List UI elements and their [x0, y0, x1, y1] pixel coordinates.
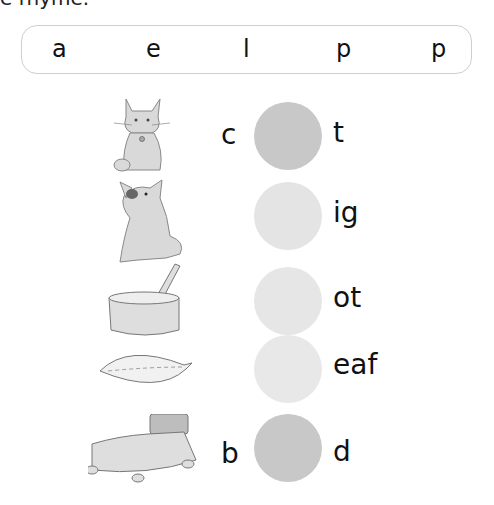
answer-circle[interactable]: [254, 102, 322, 170]
pot-icon: [105, 260, 185, 340]
answer-circle[interactable]: [254, 267, 322, 335]
instruction-text: e rhyme.: [0, 0, 89, 10]
word-row-cat: c t: [0, 95, 494, 175]
bank-letter[interactable]: a: [52, 34, 67, 64]
cat-icon: [112, 95, 172, 175]
word-row-bed: b d: [0, 410, 494, 500]
pig-icon: [110, 176, 190, 266]
bank-letter[interactable]: p: [431, 34, 446, 64]
answer-circle[interactable]: [254, 182, 322, 250]
bank-letter[interactable]: l: [243, 34, 250, 64]
leaf-icon: [98, 347, 194, 393]
rime-text: d: [333, 436, 351, 468]
rime-text: ig: [333, 197, 359, 229]
rime-text: eaf: [333, 349, 377, 381]
letter-bank: a e l p p: [21, 25, 472, 74]
bed-icon: [88, 414, 204, 484]
word-row-pig: ig: [0, 176, 494, 266]
word-row-leaf: eaf: [0, 335, 494, 405]
bank-letter[interactable]: e: [146, 34, 161, 64]
onset-letter: b: [221, 438, 239, 470]
rime-text: t: [333, 117, 344, 149]
answer-circle[interactable]: [254, 335, 322, 403]
word-row-pot: ot: [0, 260, 494, 340]
onset-letter: c: [221, 119, 236, 151]
rime-text: ot: [333, 282, 361, 314]
bank-letter[interactable]: p: [336, 34, 351, 64]
answer-circle[interactable]: [254, 414, 322, 482]
